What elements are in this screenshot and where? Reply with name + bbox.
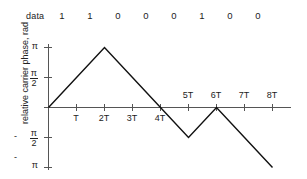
plot-canvas [0,0,307,179]
phase-trellis-figure: data 1 1 0 0 0 1 0 0 relative carrier ph… [0,0,307,179]
